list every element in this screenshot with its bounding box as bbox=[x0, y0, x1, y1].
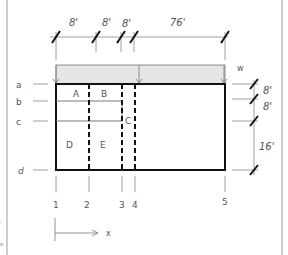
panel-c: C bbox=[125, 116, 131, 126]
right-dim-3: 16' bbox=[259, 141, 274, 152]
panel-a: A bbox=[73, 89, 80, 99]
column-label-4: 4 bbox=[132, 200, 138, 210]
margin-mark-1: ' bbox=[0, 220, 2, 227]
column-label-3: 3 bbox=[119, 200, 125, 210]
column-label-1: 1 bbox=[53, 200, 59, 210]
row-label-a: a bbox=[16, 80, 22, 90]
right-dim-1: 8' bbox=[263, 85, 272, 96]
panel-e: E bbox=[100, 140, 106, 150]
top-dim-3: 8' bbox=[122, 18, 131, 29]
row-label-b: b bbox=[16, 97, 22, 107]
panel-b: B bbox=[101, 89, 107, 99]
top-dimension-chain bbox=[50, 31, 229, 60]
distributed-load bbox=[53, 65, 227, 84]
top-dim-2: 8' bbox=[102, 17, 111, 28]
axis-label-x: x bbox=[106, 229, 111, 238]
column-label-5: 5 bbox=[222, 197, 228, 207]
top-dim-1: 8' bbox=[69, 17, 78, 28]
right-dimension-chain bbox=[232, 79, 258, 175]
x-axis-arrow-icon bbox=[55, 218, 98, 241]
column-leaders bbox=[56, 176, 225, 192]
row-label-d: d bbox=[18, 166, 24, 176]
load-label-w: w bbox=[237, 64, 244, 73]
floor-plan-outline bbox=[56, 84, 225, 170]
margin-mark-2: e bbox=[0, 240, 4, 247]
top-dim-4: 76' bbox=[170, 17, 185, 28]
column-label-2: 2 bbox=[84, 200, 90, 210]
right-dim-2: 8' bbox=[263, 101, 272, 112]
panel-d: D bbox=[66, 140, 73, 150]
diagram-canvas: 8' 8' 8' 76' w A B C D E a b c d bbox=[0, 0, 288, 255]
row-label-c: c bbox=[16, 117, 21, 127]
row-leaders bbox=[33, 84, 48, 170]
